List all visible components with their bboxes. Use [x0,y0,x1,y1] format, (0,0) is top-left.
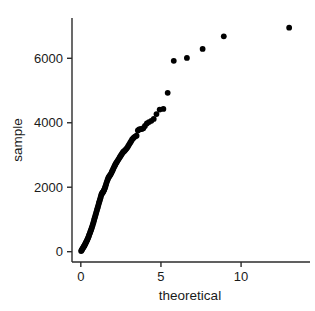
y-axis-title: sample [10,118,25,162]
data-point [184,55,190,61]
data-point [171,58,177,64]
data-point [134,133,140,139]
data-point [286,25,292,31]
data-point [165,90,171,96]
x-axis-ticks: 0510 [77,262,248,284]
y-tick-label: 4000 [34,115,63,130]
data-point-group [78,25,292,254]
axis-lines [72,18,310,262]
data-point [200,46,206,52]
data-point [160,106,166,112]
y-axis-ticks: 0200040006000 [34,51,72,259]
x-tick-label: 5 [157,269,164,284]
y-tick-label: 6000 [34,51,63,66]
data-point [221,33,227,39]
x-axis-title: theoretical [159,288,221,303]
x-tick-label: 0 [77,269,84,284]
y-tick-label: 0 [56,244,63,259]
qq-plot-figure: 0200040006000 0510 theoretical sample [0,0,315,311]
y-tick-label: 2000 [34,180,63,195]
x-tick-label: 10 [234,269,248,284]
scatter-plot-canvas: 0200040006000 0510 theoretical sample [0,0,315,311]
